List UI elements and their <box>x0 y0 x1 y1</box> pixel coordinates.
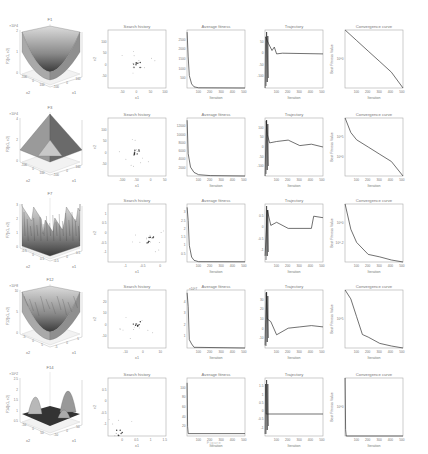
surface-ytick: -100 <box>21 75 27 79</box>
average-fitness-xtick: 500 <box>241 264 247 268</box>
surface-xtick: -0.5 <box>53 259 59 263</box>
search-point <box>126 317 127 318</box>
surface-ytick: 100 <box>39 171 44 175</box>
trajectory-axes <box>265 290 323 348</box>
average-fitness-plot: Average fitnessIteration1002003004005005… <box>178 24 246 100</box>
surface-xtick: -100 <box>53 173 59 177</box>
search-history-ytick: 0 <box>105 231 107 235</box>
search-point <box>142 320 143 321</box>
convergence-curve-axes <box>345 118 403 176</box>
search-point <box>152 237 153 238</box>
convergence-curve-title: Convergence curve <box>356 284 393 289</box>
search-history-axes <box>108 118 166 176</box>
search-history-xtick: -50 <box>120 90 125 94</box>
surface-xlabel: x1 <box>72 265 76 269</box>
surface-ytick: 0 <box>32 167 34 171</box>
search-point <box>158 250 159 251</box>
convergence-curve-xlabel: Iteration <box>368 356 381 360</box>
average-fitness-ytick: 4000 <box>178 157 185 161</box>
trajectory-ytick: -10 <box>259 336 264 340</box>
search-point <box>135 64 136 65</box>
search-point <box>151 238 152 239</box>
convergence-curve-title: Convergence curve <box>356 112 393 117</box>
average-fitness-title: Average fitness <box>202 198 231 203</box>
average-fitness-ytick: 10000 <box>177 133 186 137</box>
search-point <box>118 420 119 421</box>
figure-caption: Figure <box>0 440 428 445</box>
convergence-curve-plot: Convergence curveIterationBest Fitness V… <box>330 198 405 274</box>
surface-ztick: 2 <box>16 217 18 221</box>
search-history-plot: Search historyx1x2-100-50050-50050100 <box>93 112 167 188</box>
average-fitness-plot: Average fitnessIteration1002003004005000… <box>181 198 247 274</box>
search-history-ytick: 1 <box>105 212 107 216</box>
search-history-title: Search history <box>124 24 152 29</box>
average-fitness-xtick: 300 <box>218 178 224 182</box>
surface-zlabel: F1(x1, x2) <box>6 48 10 64</box>
search-history-ytick: 0 <box>105 399 107 403</box>
search-history-xtick: 100 <box>162 90 168 94</box>
search-point <box>147 330 148 331</box>
trajectory-xlabel: Iteration <box>288 270 301 274</box>
average-fitness-plot: Average fitnessIteration1002003004005002… <box>180 372 247 448</box>
convergence-curve-title: Convergence curve <box>356 372 393 377</box>
search-point <box>116 430 117 431</box>
search-point <box>139 67 140 68</box>
convergence-curve-plot: Convergence curveIterationBest Fitness V… <box>330 24 405 100</box>
surface-xtick: 5 <box>77 337 79 341</box>
trajectory-xtick: 200 <box>285 90 291 94</box>
search-point <box>118 435 119 436</box>
trajectory-xtick: 300 <box>296 350 302 354</box>
search-point <box>137 151 138 152</box>
average-fitness-ytick: 80 <box>182 395 186 399</box>
search-history-ytick: -10 <box>102 334 107 338</box>
search-history-xlabel: x1 <box>135 356 139 360</box>
surface-ylabel: x2 <box>26 351 30 355</box>
surface-zlabel: F3(x1, x2) <box>6 136 10 152</box>
search-point <box>146 238 147 239</box>
convergence-curve-ytick: 10^0 <box>337 57 344 61</box>
average-fitness-plot: Average fitnessIteration1002003004005001… <box>184 284 247 360</box>
search-point <box>135 140 136 141</box>
average-fitness-ytick: 2500 <box>178 38 185 42</box>
average-fitness-xtick: 400 <box>230 264 236 268</box>
search-point <box>136 63 137 64</box>
search-point <box>130 338 131 339</box>
surface-ztick: 1 <box>16 409 18 413</box>
search-point <box>123 330 124 331</box>
search-point <box>133 324 134 325</box>
average-fitness-axes <box>187 118 245 176</box>
average-fitness-ytick: 4 <box>184 300 186 304</box>
search-history-ytick: -50 <box>102 74 107 78</box>
trajectory-ytick: 100 <box>258 126 264 130</box>
surface-zlabel: F7(x1, x2) <box>6 222 10 238</box>
convergence-curve-ylabel: Best Fitness Value <box>330 392 334 422</box>
average-fitness-axes <box>187 204 245 262</box>
search-history-ytick: 100 <box>101 40 107 44</box>
convergence-curve-xtick: 400 <box>388 350 394 354</box>
search-point <box>134 152 135 153</box>
surface-ytick: -0.5 <box>21 249 27 253</box>
search-history-xtick: 10 <box>158 350 162 354</box>
average-fitness-ytick: 20 <box>182 424 186 428</box>
surface-xtick: 100 <box>75 165 80 169</box>
average-fitness-ytick: 100 <box>180 386 186 390</box>
trajectory-xlabel: Iteration <box>288 356 301 360</box>
average-fitness-ytick: 1 <box>184 334 186 338</box>
trajectory-xtick: 500 <box>319 90 325 94</box>
convergence-curve-xtick: 200 <box>365 90 371 94</box>
search-point <box>154 60 155 61</box>
search-history-title: Search history <box>124 112 152 117</box>
search-point <box>116 433 117 434</box>
search-history-ylabel: x2 <box>93 145 97 149</box>
surface-xtick: -50 <box>54 433 59 437</box>
search-history-ytick: 0 <box>105 323 107 327</box>
average-fitness-axes <box>187 290 245 348</box>
trajectory-xlabel: Iteration <box>288 184 301 188</box>
search-history-ytick: 0 <box>105 151 107 155</box>
surface-ztick: 0.5 <box>14 419 19 423</box>
trajectory-xtick: 400 <box>308 350 314 354</box>
search-point <box>140 321 141 322</box>
trajectory-axes <box>265 118 323 176</box>
convergence-curve-plot: Convergence curveIterationBest Fitness V… <box>330 284 405 360</box>
trajectory-ytick: 0.5 <box>259 214 264 218</box>
